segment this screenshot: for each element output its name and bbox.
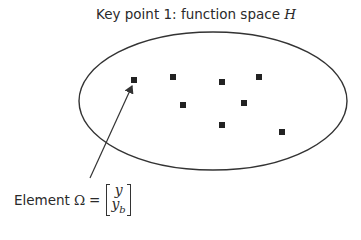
element-point <box>219 79 225 85</box>
element-text: Element <box>14 192 70 208</box>
vector-yb: yb <box>111 197 125 217</box>
vector-matrix: y yb <box>106 183 130 217</box>
element-point <box>180 102 186 108</box>
pointer-arrow <box>90 86 132 178</box>
function-space-ellipse <box>79 32 347 170</box>
omega-symbol: Ω <box>74 192 85 208</box>
element-label: Element Ω = y yb <box>14 183 131 217</box>
element-point <box>219 122 225 128</box>
element-point <box>279 129 285 135</box>
element-point <box>131 77 137 83</box>
element-point <box>241 100 247 106</box>
vector-y: y <box>111 183 125 197</box>
equals-sign: = <box>89 192 100 208</box>
element-point <box>170 74 176 80</box>
element-point <box>256 74 262 80</box>
elements-points <box>131 74 285 135</box>
